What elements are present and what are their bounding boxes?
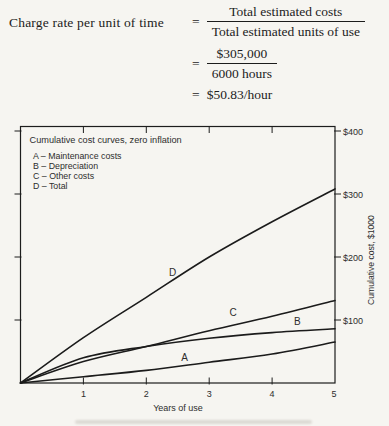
curve-label-a: A bbox=[181, 352, 188, 363]
formula-result: $50.83/hour bbox=[207, 87, 273, 103]
curve-d bbox=[21, 189, 336, 383]
scanned-figure-page: Charge rate per unit of time = Total est… bbox=[0, 0, 389, 426]
curve-label-c: C bbox=[229, 307, 236, 318]
x-tick-label: 3 bbox=[207, 389, 212, 399]
equals-sign: = bbox=[192, 87, 200, 103]
y-tick-label: $300 bbox=[343, 190, 363, 200]
formula-steps: = Total estimated costs Total estimated … bbox=[192, 3, 365, 108]
equals-sign: = bbox=[192, 14, 200, 30]
y-tick-label: $100 bbox=[343, 316, 363, 326]
curves-layer: ABCD bbox=[21, 189, 336, 383]
formula-step-2: = $305,000 6000 hours bbox=[192, 45, 365, 82]
curve-label-b: B bbox=[294, 316, 301, 327]
y-tick-label: $400 bbox=[343, 127, 363, 137]
legend-item-b: B – Depreciation bbox=[33, 161, 98, 171]
formula-lhs: Charge rate per unit of time bbox=[9, 15, 164, 31]
fraction-numerator: $305,000 bbox=[207, 45, 277, 64]
equals-sign: = bbox=[192, 56, 200, 72]
chart-title: Cumulative cost curves, zero inflation bbox=[30, 135, 182, 145]
curve-b bbox=[21, 329, 336, 383]
formula-step-3: = $50.83/hour bbox=[192, 87, 365, 103]
x-axis-title: Years of use bbox=[153, 403, 203, 413]
x-axis-labels: 1 2 3 4 5 bbox=[81, 389, 337, 399]
fraction-denominator: Total estimated units of use bbox=[207, 22, 365, 40]
cutoff-caption-smudge bbox=[75, 420, 312, 424]
fraction-numerator: Total estimated costs bbox=[207, 3, 365, 22]
curve-label-d: D bbox=[169, 267, 176, 278]
x-tick-label: 5 bbox=[331, 389, 336, 399]
fraction-denominator: 6000 hours bbox=[207, 64, 277, 82]
y-axis-title: Cumulative cost, $1000 bbox=[366, 215, 376, 305]
x-tick-label: 2 bbox=[144, 389, 149, 399]
legend-item-c: C – Other costs bbox=[33, 171, 95, 181]
fraction-dollar-values: $305,000 6000 hours bbox=[207, 45, 277, 82]
x-tick-label: 1 bbox=[81, 389, 86, 399]
cost-chart: Cumulative cost curves, zero inflation A… bbox=[0, 120, 389, 426]
chart-legend: Cumulative cost curves, zero inflation A… bbox=[30, 135, 182, 191]
legend-item-a: A – Maintenance costs bbox=[33, 151, 122, 161]
charge-rate-formula: Charge rate per unit of time = Total est… bbox=[0, 0, 389, 120]
y-tick-label: $200 bbox=[343, 253, 363, 263]
y-axis-labels: $400 $300 $200 $100 bbox=[343, 127, 363, 326]
fraction-estimated-costs: Total estimated costs Total estimated un… bbox=[207, 3, 365, 40]
x-tick-label: 4 bbox=[270, 389, 275, 399]
legend-item-d: D – Total bbox=[33, 181, 68, 191]
formula-step-1: = Total estimated costs Total estimated … bbox=[192, 3, 365, 40]
